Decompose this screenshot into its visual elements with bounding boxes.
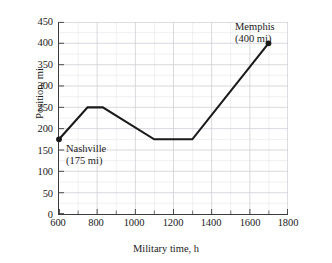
y-tick-label: 50 bbox=[19, 189, 53, 200]
y-tick-label: 450 bbox=[19, 17, 53, 28]
x-tick-label: 1000 bbox=[114, 217, 154, 228]
x-tick-label: 1200 bbox=[153, 217, 193, 228]
data-point-nashville bbox=[56, 136, 62, 142]
figure-container: 450 400 350 300 250 200 150 100 50 0 Pos… bbox=[0, 0, 332, 263]
y-axis-label: Position, mi bbox=[34, 49, 45, 139]
position-line bbox=[59, 43, 268, 139]
plot-area bbox=[58, 22, 288, 215]
annotation-nashville-line1: Nashville bbox=[66, 143, 106, 154]
annotation-nashville: Nashville (175 mi) bbox=[66, 143, 106, 166]
x-axis-label: Military time, h bbox=[0, 243, 332, 254]
x-tick-label: 600 bbox=[38, 217, 78, 228]
x-tick-label: 1600 bbox=[230, 217, 270, 228]
annotation-nashville-line2: (175 mi) bbox=[66, 155, 106, 167]
annotation-memphis-line2: (400 mi) bbox=[235, 33, 275, 45]
annotation-memphis-line1: Memphis bbox=[235, 21, 275, 32]
x-tick-label: 800 bbox=[76, 217, 116, 228]
y-tick-label: 150 bbox=[19, 146, 53, 157]
x-tick-label: 1400 bbox=[191, 217, 231, 228]
x-tick-label: 1800 bbox=[268, 217, 308, 228]
y-tick-label: 100 bbox=[19, 167, 53, 178]
annotation-memphis: Memphis (400 mi) bbox=[235, 21, 275, 44]
y-tick-label: 400 bbox=[19, 38, 53, 49]
data-series-layer bbox=[59, 22, 288, 214]
